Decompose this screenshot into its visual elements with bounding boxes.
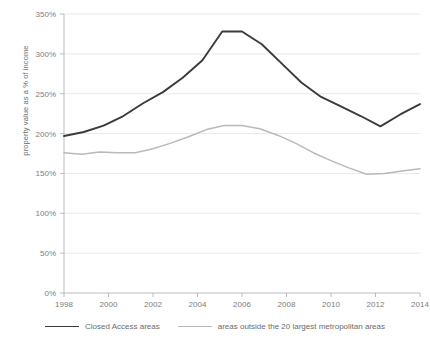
x-axis-ticks: 199820002002200420062008201020122014 [55, 293, 429, 309]
plot-area: 0%50%100%150%200%250%300%350% 1998200020… [0, 0, 430, 343]
y-tick-label: 300% [36, 50, 56, 59]
legend-item-closed-access-areas: Closed Access areas [45, 322, 160, 331]
legend-label: areas outside the 20 largest metropolita… [218, 322, 385, 331]
chart-legend: Closed Access areas areas outside the 20… [0, 322, 430, 331]
x-tick-label: 2000 [100, 300, 118, 309]
dark-line-swatch-icon [45, 326, 79, 327]
y-axis-ticks: 0%50%100%150%200%250%300%350% [36, 10, 64, 298]
x-tick-label: 2006 [233, 300, 251, 309]
legend-item-areas-outside-20-largest-metros: areas outside the 20 largest metropolita… [178, 322, 385, 331]
y-tick-label: 0% [44, 289, 56, 298]
gridlines [64, 14, 420, 253]
legend-label: Closed Access areas [85, 322, 160, 331]
x-tick-label: 2014 [411, 300, 429, 309]
y-tick-label: 50% [40, 249, 56, 258]
light-line-swatch-icon [178, 326, 212, 327]
y-tick-label: 100% [36, 209, 56, 218]
series-line-areas-outside-20-largest-metros [64, 126, 420, 175]
x-tick-label: 1998 [55, 300, 73, 309]
y-tick-label: 250% [36, 90, 56, 99]
x-tick-label: 2010 [322, 300, 340, 309]
line-chart: property value as a % of income 0%50%100… [0, 0, 430, 343]
x-tick-label: 2008 [278, 300, 296, 309]
y-tick-label: 350% [36, 10, 56, 19]
x-tick-label: 2012 [367, 300, 385, 309]
y-tick-label: 200% [36, 130, 56, 139]
series-line-closed-access-areas [64, 32, 420, 136]
y-tick-label: 150% [36, 169, 56, 178]
x-tick-label: 2002 [144, 300, 162, 309]
x-tick-label: 2004 [189, 300, 207, 309]
